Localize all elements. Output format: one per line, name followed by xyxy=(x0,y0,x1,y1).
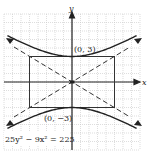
origin-marker xyxy=(70,81,75,84)
x-axis-label: x xyxy=(142,78,147,87)
vertex-label-bottom: (0, −3) xyxy=(44,114,72,123)
arrow-upper-right-icon xyxy=(134,38,142,44)
vertex-label-top: (0, 3) xyxy=(74,45,96,54)
equation-label: 25y² − 9x² = 225 xyxy=(5,135,75,144)
hyperbola-graph: x y (0, 3) (0, −3) 25y² − 9x² = 225 xyxy=(0,0,148,152)
x-axis-arrow-icon xyxy=(134,80,140,85)
arrow-lower-right-icon xyxy=(134,120,142,126)
y-axis-label: y xyxy=(68,4,74,13)
